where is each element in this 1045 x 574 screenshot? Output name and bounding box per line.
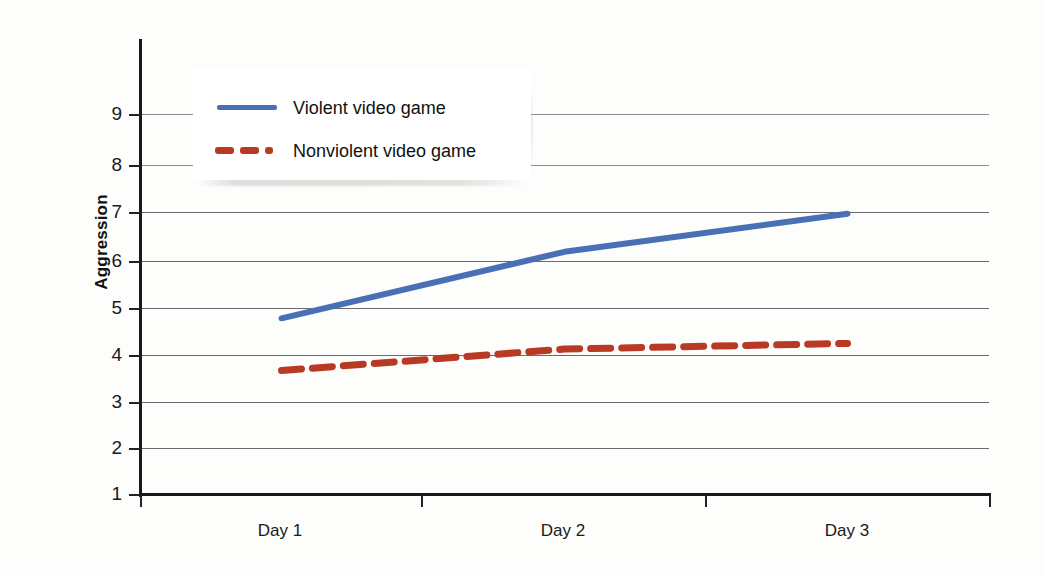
legend-label-nonviolent-video-game: Nonviolent video game [293,141,476,162]
y-tick-label-9: 9 [86,104,122,123]
y-tick-8 [129,165,141,167]
x-tick-1 [421,495,423,507]
y-tick-label-3: 3 [86,392,122,411]
gridline-7 [141,212,989,213]
gridline-4 [141,355,989,356]
y-tick-4 [129,355,141,357]
x-axis-line [139,493,991,496]
chart-legend: Violent video game Nonviolent video game [193,68,531,180]
y-tick-label-6: 6 [86,251,122,270]
x-axis-label-day-3: Day 3 [767,521,927,541]
y-tick-2 [129,448,141,450]
gridline-2 [141,448,989,449]
gridline-6 [141,261,989,262]
legend-item-nonviolent-video-game: Nonviolent video game [215,138,476,164]
x-tick-0 [140,495,142,507]
y-tick-label-4: 4 [86,345,122,364]
aggression-line-chart: Aggression 9 8 7 6 5 4 3 2 1 Day 1 Day 2… [0,0,1045,574]
legend-label-violent-video-game: Violent video game [293,98,446,119]
y-tick-9 [129,114,141,116]
y-tick-3 [129,402,141,404]
legend-swatch-dashed-line-icon [215,138,279,164]
legend-item-violent-video-game: Violent video game [215,95,446,121]
x-axis-label-day-1: Day 1 [200,521,360,541]
y-tick-label-1: 1 [86,484,122,503]
y-tick-7 [129,212,141,214]
y-axis-line [139,39,142,497]
y-tick-label-2: 2 [86,438,122,457]
y-tick-label-5: 5 [86,298,122,317]
series-line-violent-video-game [282,214,848,318]
y-tick-label-7: 7 [86,202,122,221]
y-tick-label-8: 8 [86,155,122,174]
gridline-5 [141,308,989,309]
x-tick-3 [989,495,991,507]
y-tick-5 [129,308,141,310]
gridline-3 [141,402,989,403]
series-line-nonviolent-video-game [282,343,848,370]
x-tick-2 [705,495,707,507]
x-axis-label-day-2: Day 2 [483,521,643,541]
legend-swatch-solid-line-icon [215,95,279,121]
y-tick-6 [129,261,141,263]
